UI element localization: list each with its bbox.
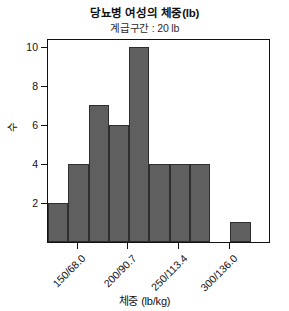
plot-area [47, 39, 270, 243]
chart-title: 당뇨병 여성의 체중(lb) [0, 4, 289, 20]
histogram-bar [109, 125, 129, 242]
y-axis-tick-label: 6 [0, 119, 38, 131]
histogram-bar [129, 47, 149, 242]
y-axis-tick-label: 8 [0, 80, 38, 92]
y-axis-tick-label: 4 [0, 158, 38, 170]
histogram-bar [230, 222, 250, 242]
histogram-bar [149, 164, 169, 242]
histogram-bar [89, 105, 109, 242]
histogram-bar [68, 164, 88, 242]
y-axis-tick-label: 2 [0, 197, 38, 209]
x-axis-tick [178, 243, 179, 249]
x-axis-tick [127, 243, 128, 249]
x-axis-title: 체중 (lb/kg) [0, 292, 289, 308]
x-axis-tick [77, 243, 78, 249]
histogram-bar [48, 203, 68, 242]
histogram-chart: 당뇨병 여성의 체중(lb) 계급구간 : 20 lb 수 246810 150… [0, 0, 289, 311]
histogram-bar [170, 164, 190, 242]
x-axis-tick [229, 243, 230, 249]
y-axis-tick-label: 10 [0, 41, 38, 53]
bars-layer [48, 40, 269, 242]
chart-subtitle: 계급구간 : 20 lb [0, 20, 289, 35]
histogram-bar [190, 164, 210, 242]
